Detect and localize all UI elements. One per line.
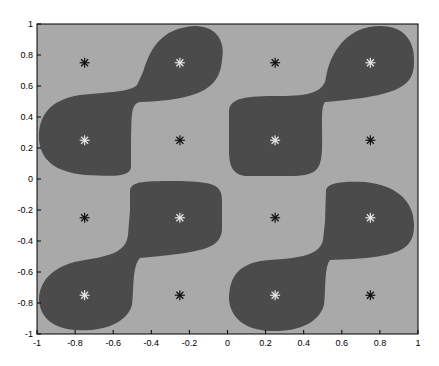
star-marker-light: [270, 290, 280, 300]
x-tick-label: -0.4: [144, 338, 160, 348]
star-marker-dark: [80, 58, 90, 68]
x-tick-labels: -1 -0.8 -0.6 -0.4 -0.2 0 0.2 0.4 0.6 0.8…: [33, 338, 421, 348]
y-tick-label: -0.4: [17, 236, 33, 246]
x-tick-label: -0.2: [182, 338, 198, 348]
y-tick-label: 0.8: [20, 50, 33, 60]
x-tick-label: 0.2: [259, 338, 272, 348]
x-tick-label: -0.6: [105, 338, 121, 348]
star-marker-light: [270, 135, 280, 145]
star-marker-light: [175, 213, 185, 223]
star-marker-light: [80, 135, 90, 145]
star-marker-dark: [270, 213, 280, 223]
star-marker-dark: [270, 58, 280, 68]
x-tick-label: 1: [415, 338, 420, 348]
x-tick-label: -0.8: [67, 338, 83, 348]
decision-region-chart: -1 -0.8 -0.6 -0.4 -0.2 0 0.2 0.4 0.6 0.8…: [0, 0, 439, 366]
star-marker-light: [365, 58, 375, 68]
x-tick-label: 0.8: [374, 338, 387, 348]
star-marker-dark: [365, 290, 375, 300]
y-tick-label: -0.8: [17, 298, 33, 308]
star-marker-dark: [175, 135, 185, 145]
star-marker-dark: [175, 290, 185, 300]
y-tick-label: 0: [28, 174, 33, 184]
y-tick-label: 1: [28, 19, 33, 29]
x-tick-label: 0.4: [297, 338, 310, 348]
x-tick-label: 0.6: [336, 338, 349, 348]
x-tick-label: -1: [33, 338, 41, 348]
y-tick-labels: 1 0.8 0.6 0.4 0.2 0 -0.2 -0.4 -0.6 -0.8 …: [17, 19, 33, 339]
star-marker-light: [365, 213, 375, 223]
star-marker-dark: [80, 213, 90, 223]
y-tick-label: -1: [25, 329, 33, 339]
star-marker-dark: [365, 135, 375, 145]
star-marker-light: [175, 58, 185, 68]
y-tick-label: 0.4: [20, 112, 33, 122]
y-tick-label: -0.6: [17, 267, 33, 277]
y-tick-label: -0.2: [17, 205, 33, 215]
star-marker-light: [80, 290, 90, 300]
x-tick-label: 0: [225, 338, 230, 348]
y-tick-label: 0.6: [20, 81, 33, 91]
y-tick-label: 0.2: [20, 143, 33, 153]
